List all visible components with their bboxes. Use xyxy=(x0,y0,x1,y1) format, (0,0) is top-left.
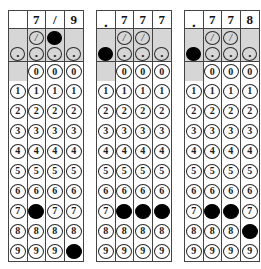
bubble-digit-6-col3-empty[interactable]: 6 xyxy=(223,184,239,199)
bubble-digit-4-col1-empty[interactable]: 4 xyxy=(10,144,26,159)
cell-digit-0-col4[interactable]: 0 xyxy=(153,62,172,81)
cell-digit-9-col4[interactable]: 9 xyxy=(65,241,84,261)
cell-digit-6-col3[interactable]: 6 xyxy=(222,181,241,201)
cell-digit-1-col2[interactable]: 1 xyxy=(204,81,223,101)
bubble-digit-4-col4-empty[interactable]: 4 xyxy=(66,144,82,159)
cell-digit-8-col2[interactable]: 8 xyxy=(204,221,223,241)
cell-digit-9-col4[interactable]: 9 xyxy=(241,241,260,261)
bubble-digit-3-col4-empty[interactable]: 3 xyxy=(242,124,258,139)
cell-digit-7-col2[interactable]: 7 xyxy=(28,201,47,221)
bubble-digit-3-col1-empty[interactable]: 3 xyxy=(10,124,26,139)
cell-digit-1-col3[interactable]: 1 xyxy=(46,81,65,101)
cell-digit-3-col1[interactable]: 3 xyxy=(185,121,204,141)
cell-dot-col3[interactable]: . xyxy=(134,46,153,61)
bubble-digit-9-col1-empty[interactable]: 9 xyxy=(10,244,26,259)
cell-digit-6-col4[interactable]: 6 xyxy=(153,181,172,201)
cell-digit-6-col2[interactable]: 6 xyxy=(116,181,135,201)
cell-digit-9-col3[interactable]: 9 xyxy=(46,241,65,261)
bubble-dot-col2-empty[interactable]: . xyxy=(205,47,220,61)
bubble-digit-8-col2-empty[interactable]: 8 xyxy=(204,224,220,239)
bubble-digit-8-col4-filled[interactable]: 8 xyxy=(242,224,258,239)
bubble-dot-col4-empty[interactable]: . xyxy=(242,47,257,61)
cell-digit-3-col3[interactable]: 3 xyxy=(134,121,153,141)
bubble-dot-col3-empty[interactable]: . xyxy=(223,47,238,61)
cell-digit-3-col4[interactable]: 3 xyxy=(65,121,84,141)
bubble-digit-5-col2-empty[interactable]: 5 xyxy=(28,164,44,179)
bubble-digit-5-col2-empty[interactable]: 5 xyxy=(116,164,132,179)
cell-digit-1-col4[interactable]: 1 xyxy=(65,81,84,101)
bubble-digit-0-col2-empty[interactable]: 0 xyxy=(116,64,132,79)
cell-digit-5-col3[interactable]: 5 xyxy=(134,161,153,181)
bubble-digit-6-col2-empty[interactable]: 6 xyxy=(116,184,132,199)
bubble-dot-col1-filled[interactable]: . xyxy=(186,47,201,61)
cell-digit-5-col4[interactable]: 5 xyxy=(241,161,260,181)
bubble-digit-5-col4-empty[interactable]: 5 xyxy=(154,164,170,179)
bubble-digit-6-col3-empty[interactable]: 6 xyxy=(135,184,151,199)
bubble-digit-1-col4-empty[interactable]: 1 xyxy=(66,84,82,99)
answer-box-col4[interactable]: 9 xyxy=(65,11,84,28)
bubble-digit-6-col2-empty[interactable]: 6 xyxy=(204,184,220,199)
bubble-digit-7-col4-filled[interactable]: 7 xyxy=(154,204,170,219)
bubble-dot-col1-filled[interactable]: . xyxy=(98,47,113,61)
bubble-digit-1-col1-empty[interactable]: 1 xyxy=(10,84,26,99)
bubble-digit-0-col2-empty[interactable]: 0 xyxy=(204,64,220,79)
cell-digit-9-col2[interactable]: 9 xyxy=(116,241,135,261)
answer-box-col2[interactable]: 7 xyxy=(116,11,135,28)
bubble-dot-col2-empty[interactable]: . xyxy=(29,47,44,61)
cell-digit-5-col1[interactable]: 5 xyxy=(97,161,116,181)
bubble-digit-9-col4-empty[interactable]: 9 xyxy=(242,244,258,259)
cell-digit-2-col3[interactable]: 2 xyxy=(222,101,241,121)
cell-digit-0-col2[interactable]: 0 xyxy=(116,62,135,81)
bubble-digit-2-col3-empty[interactable]: 2 xyxy=(135,104,151,119)
cell-digit-6-col2[interactable]: 6 xyxy=(28,181,47,201)
bubble-digit-5-col3-empty[interactable]: 5 xyxy=(135,164,151,179)
cell-digit-8-col1[interactable]: 8 xyxy=(185,221,204,241)
cell-digit-2-col3[interactable]: 2 xyxy=(134,101,153,121)
bubble-digit-4-col3-empty[interactable]: 4 xyxy=(47,144,63,159)
bubble-digit-1-col4-empty[interactable]: 1 xyxy=(154,84,170,99)
cell-slash-col3[interactable]: / xyxy=(46,29,65,46)
cell-digit-5-col3[interactable]: 5 xyxy=(46,161,65,181)
cell-digit-7-col4[interactable]: 7 xyxy=(153,201,172,221)
bubble-digit-3-col3-empty[interactable]: 3 xyxy=(47,124,63,139)
bubble-digit-7-col1-empty[interactable]: 7 xyxy=(98,204,114,219)
bubble-digit-5-col4-empty[interactable]: 5 xyxy=(242,164,258,179)
answer-box-col1[interactable]: . xyxy=(97,11,116,28)
bubble-digit-0-col4-empty[interactable]: 0 xyxy=(242,64,258,79)
cell-digit-7-col1[interactable]: 7 xyxy=(9,201,28,221)
bubble-digit-8-col3-empty[interactable]: 8 xyxy=(47,224,63,239)
answer-box-col3[interactable]: 7 xyxy=(134,11,153,28)
bubble-digit-3-col2-empty[interactable]: 3 xyxy=(28,124,44,139)
cell-slash-col3[interactable]: / xyxy=(134,29,153,46)
bubble-dot-col3-empty[interactable]: . xyxy=(135,47,150,61)
bubble-slash-col2-empty[interactable]: / xyxy=(205,31,220,45)
cell-digit-2-col1[interactable]: 2 xyxy=(9,101,28,121)
cell-digit-6-col4[interactable]: 6 xyxy=(65,181,84,201)
bubble-digit-1-col2-empty[interactable]: 1 xyxy=(28,84,44,99)
bubble-digit-0-col3-empty[interactable]: 0 xyxy=(135,64,151,79)
bubble-digit-9-col3-empty[interactable]: 9 xyxy=(135,244,151,259)
bubble-digit-2-col4-empty[interactable]: 2 xyxy=(66,104,82,119)
cell-digit-3-col3[interactable]: 3 xyxy=(222,121,241,141)
answer-box-col3[interactable]: / xyxy=(46,11,65,28)
bubble-slash-col3-empty[interactable]: / xyxy=(135,31,150,45)
cell-digit-8-col2[interactable]: 8 xyxy=(28,221,47,241)
cell-digit-3-col3[interactable]: 3 xyxy=(46,121,65,141)
bubble-digit-2-col2-empty[interactable]: 2 xyxy=(28,104,44,119)
cell-digit-1-col4[interactable]: 1 xyxy=(153,81,172,101)
bubble-digit-9-col1-empty[interactable]: 9 xyxy=(186,244,202,259)
cell-digit-9-col1[interactable]: 9 xyxy=(9,241,28,261)
cell-digit-5-col1[interactable]: 5 xyxy=(185,161,204,181)
cell-digit-8-col4[interactable]: 8 xyxy=(65,221,84,241)
cell-digit-6-col2[interactable]: 6 xyxy=(204,181,223,201)
bubble-digit-2-col3-empty[interactable]: 2 xyxy=(47,104,63,119)
cell-digit-0-col2[interactable]: 0 xyxy=(28,62,47,81)
bubble-digit-6-col4-empty[interactable]: 6 xyxy=(242,184,258,199)
bubble-digit-1-col3-empty[interactable]: 1 xyxy=(223,84,239,99)
bubble-digit-5-col3-empty[interactable]: 5 xyxy=(47,164,63,179)
cell-dot-col3[interactable]: . xyxy=(46,46,65,61)
cell-digit-2-col2[interactable]: 2 xyxy=(28,101,47,121)
bubble-digit-0-col3-empty[interactable]: 0 xyxy=(223,64,239,79)
cell-slash-col2[interactable]: / xyxy=(116,29,135,46)
bubble-digit-7-col4-empty[interactable]: 7 xyxy=(242,204,258,219)
